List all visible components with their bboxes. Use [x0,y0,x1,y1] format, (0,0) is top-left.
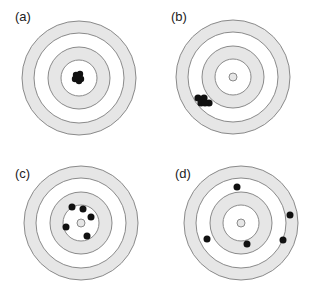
accuracy-precision-targets: (a)(b)(c)(d) [0,0,312,295]
shot-mark [204,236,211,243]
shot-mark [88,214,95,221]
panel-label: (d) [175,166,191,181]
shot-mark [244,241,251,248]
shot-mark [201,99,208,106]
shot-mark [84,233,91,240]
target-panel-b: (b) [171,9,290,134]
target-panel-d: (d) [175,166,298,280]
shot-mark [63,224,70,231]
target-panel-a: (a) [15,9,136,135]
shot-mark [234,184,241,191]
bullseye [237,219,245,227]
shot-mark [287,212,294,219]
bullseye [77,219,85,227]
shot-mark [74,73,80,79]
panel-label: (b) [171,9,187,24]
shot-mark [80,206,87,213]
panel-label: (a) [15,9,31,24]
target-panel-c: (c) [15,166,138,280]
shot-mark [280,237,287,244]
shot-mark [69,204,76,211]
panel-label: (c) [15,166,30,181]
bullseye [229,73,237,81]
